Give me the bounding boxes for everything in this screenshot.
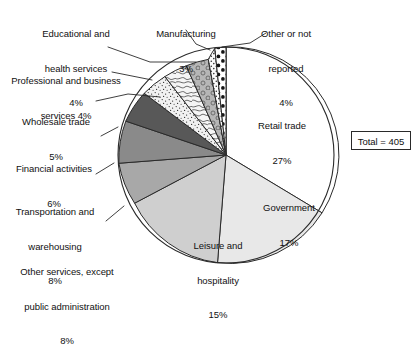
label-line: Wholesale trade [12, 116, 100, 128]
label-value: 17% [249, 237, 329, 249]
label-line: reported [240, 63, 332, 75]
label-line: Financial activities [4, 163, 104, 175]
label-line: Professional and business [4, 75, 128, 87]
label-value: 27% [240, 155, 324, 167]
label-line: Leisure and [180, 240, 256, 252]
label-line: Educational and [16, 28, 136, 40]
label-line: Government [249, 202, 329, 214]
label-line: Other services, except [2, 266, 132, 278]
label-manufacturing: Manufacturing 3% [140, 5, 232, 97]
label-value: 15% [180, 309, 256, 321]
label-value: 3% [140, 63, 232, 75]
label-line: Other or not [240, 28, 332, 40]
label-government: Government 17% [249, 179, 329, 271]
label-line: hospitality [180, 275, 256, 287]
label-retail-trade: Retail trade 27% [240, 97, 324, 189]
label-leisure-and-hospitality: Leisure and hospitality 15% [180, 217, 256, 344]
leader-other-services [106, 206, 124, 221]
label-line: Retail trade [240, 120, 324, 132]
label-line: public administration [2, 301, 132, 313]
total-box: Total = 405 [351, 131, 411, 150]
label-line: Manufacturing [140, 28, 232, 40]
label-other-services-except-public-administration: Other services, except public administra… [2, 243, 132, 348]
label-line: Transportation and [6, 206, 104, 218]
label-value: 8% [2, 335, 132, 347]
